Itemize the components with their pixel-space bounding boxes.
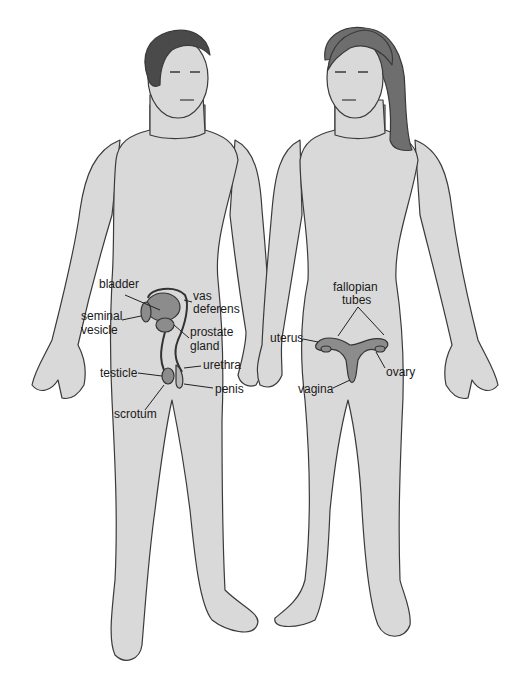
anatomy-illustration [0, 0, 520, 683]
ovary-left-organ [321, 346, 331, 352]
prostate-organ [156, 318, 174, 332]
label-uterus: uterus [270, 332, 303, 345]
testicle-organ [162, 368, 174, 384]
label-fallopian-tubes-2: tubes [342, 294, 371, 307]
label-bladder: bladder [99, 278, 139, 291]
bladder-organ [146, 293, 180, 321]
label-seminal-vesicle-1: seminal [81, 310, 122, 323]
label-scrotum: scrotum [114, 408, 157, 421]
male-figure [32, 30, 269, 660]
label-penis: penis [215, 383, 244, 396]
label-testicle: testicle [100, 367, 137, 380]
label-seminal-vesicle-2: vesicle [81, 324, 118, 337]
reproductive-anatomy-diagram: bladder vas deferens seminal vesicle pro… [0, 0, 520, 683]
label-ovary: ovary [386, 366, 415, 379]
label-prostate-gland-2: gland [190, 340, 219, 353]
label-vagina: vagina [298, 383, 333, 396]
label-vas-deferens-2: deferens [193, 303, 240, 316]
label-prostate-gland-1: prostate [190, 326, 233, 339]
ovary-right-organ [375, 346, 385, 352]
label-urethra: urethra [203, 359, 241, 372]
